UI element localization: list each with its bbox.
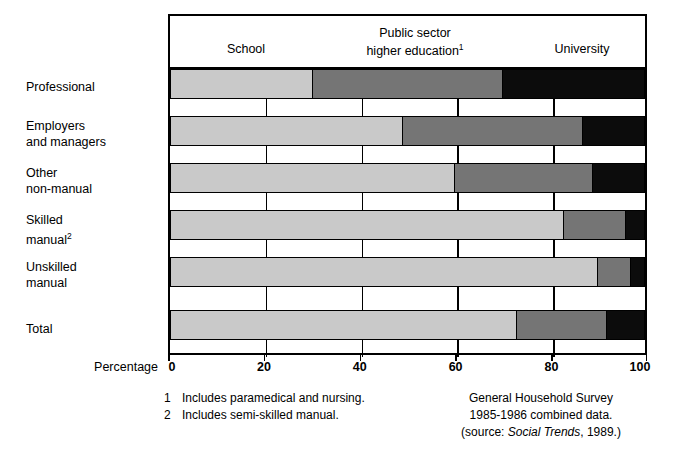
category-label-employers-and-managers: Employers and managers [26,119,164,150]
category-label-total: Total [26,322,164,338]
x-axis-title: Percentage [36,360,158,374]
segment-public-sector-higher-education [598,257,631,287]
stacked-bar [170,116,645,146]
footnote-marker-1: 1 [459,42,464,52]
footnote-2-text: Includes semi-skilled manual. [182,408,339,422]
stacked-bar [170,210,645,240]
footnote-2: 2 Includes semi-skilled manual. [164,407,414,423]
legend-label-university: University [522,42,642,56]
segment-public-sector-higher-education [313,69,503,99]
stacked-bar [170,163,645,193]
category-label-line2: and managers [26,135,164,151]
category-label-line2: manual [26,276,164,292]
bar-row-total [170,310,645,340]
footnote-marker-2: 2 [67,231,72,241]
footnote-1-number: 1 [164,390,171,406]
bars-container [170,69,645,355]
stacked-bar [170,257,645,287]
source-note-suffix: , 1989.) [580,425,621,439]
footnotes-left: 1 Includes paramedical and nursing. 2 In… [164,390,414,424]
category-label-line2: non-manual [26,182,164,198]
legend-label-public-sector-line1: Public sector [379,26,451,40]
category-label-unskilled-manual: Unskilled manual [26,260,164,291]
segment-public-sector-higher-education [564,210,626,240]
source-note-line1: General Household Survey [416,390,666,407]
bar-row-unskilled-manual [170,257,645,287]
tick-label-20: 20 [257,360,271,374]
chart-figure: School Public sector higher education1 U… [0,0,673,469]
bar-row-skilled-manual [170,210,645,240]
segment-university [626,210,645,240]
plot-area: School Public sector higher education1 U… [168,14,647,355]
footnote-1: 1 Includes paramedical and nursing. [164,390,414,406]
segment-university [583,116,645,146]
legend-label-public-sector-line2: higher education [366,44,458,58]
source-note-line3: (source: Social Trends, 1989.) [416,424,666,441]
segment-public-sector-higher-education [517,310,607,340]
segment-public-sector-higher-education [403,116,584,146]
segment-public-sector-higher-education [455,163,593,193]
segment-school [170,116,403,146]
segment-university [503,69,646,99]
category-label-skilled-manual: Skilled manual2 [26,213,164,248]
legend-label-public-sector: Public sector higher education1 [310,26,520,58]
segment-school [170,69,313,99]
footnote-2-number: 2 [164,407,171,423]
category-label-line1: Employers [26,119,164,135]
tick-label-40: 40 [353,360,367,374]
source-note-prefix: (source: [461,425,508,439]
segment-university [607,310,645,340]
category-label-line1: Unskilled [26,260,164,276]
category-label-line2: manual2 [26,229,164,249]
segment-school [170,257,598,287]
category-label-professional: Professional [26,80,164,96]
segment-school [170,310,517,340]
segment-school [170,163,455,193]
segment-school [170,210,564,240]
category-label-other-non-manual: Other non-manual [26,166,164,197]
bar-row-employers-and-managers [170,116,645,146]
bar-row-professional [170,69,645,99]
chart-legend: School Public sector higher education1 U… [170,16,645,69]
category-label-line1: Skilled [26,213,164,229]
stacked-bar [170,69,645,99]
source-note: General Household Survey 1985-1986 combi… [416,390,666,441]
source-note-line2: 1985-1986 combined data. [416,407,666,424]
x-axis-tick-labels: 0 20 40 60 80 100 [168,360,647,376]
segment-university [631,257,645,287]
segment-university [593,163,645,193]
category-label-line1: Other [26,166,164,182]
bar-row-other-non-manual [170,163,645,193]
tick-label-60: 60 [449,360,463,374]
category-label-line1: Professional [26,80,164,96]
source-note-publication: Social Trends [508,425,580,439]
tick-label-0: 0 [169,360,176,374]
category-label-line1: Total [26,322,164,338]
legend-label-school: School [178,42,314,56]
tick-label-100: 100 [630,360,651,374]
footnote-1-text: Includes paramedical and nursing. [182,391,365,405]
stacked-bar [170,310,645,340]
tick-label-80: 80 [544,360,558,374]
